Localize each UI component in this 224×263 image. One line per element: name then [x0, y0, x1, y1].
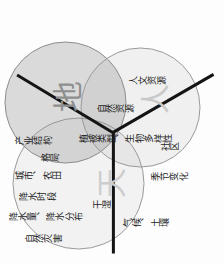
label-pattern: 格局	[40, 152, 59, 162]
label-precipitation-amount-distribution: 降水量、降水分布	[8, 211, 83, 221]
label-community: 社区	[160, 141, 179, 151]
label-city-farmland: 城市、农田	[14, 170, 61, 180]
label-cultural-resources: 人文资源	[128, 75, 166, 85]
label-natural-disaster: 自然灾害	[24, 233, 62, 243]
big-char-tian: 天	[96, 167, 126, 197]
label-natural-resources: 自然资源	[96, 103, 134, 113]
label-industrial-structure: 产业结构	[14, 135, 52, 145]
label-climate-soil: 气候、土壤	[122, 217, 169, 227]
label-seasonal-change: 季节变化	[150, 171, 188, 181]
label-precipitation-period: 降水时段	[18, 191, 56, 201]
label-dry-wet: 干湿	[92, 199, 111, 209]
big-char-ren: 人	[140, 83, 170, 113]
big-char-di: 地	[52, 80, 83, 111]
diagram-canvas: 天 地 人 自然灾害 降水量、降水分布 降水时段 城市、农田 格局 产业结构 植…	[0, 0, 224, 263]
label-vegetation-biodiversity: 植被类型、生物多样性	[78, 133, 172, 143]
diagram-rotation-group: 天 地 人 自然灾害 降水量、降水分布 降水时段 城市、农田 格局 产业结构 植…	[0, 0, 224, 263]
